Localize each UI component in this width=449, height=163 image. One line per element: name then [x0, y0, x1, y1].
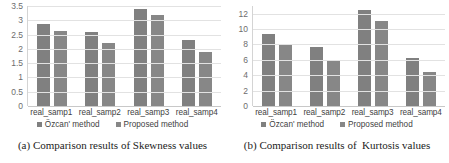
x-tick-label: real_samp2 [300, 108, 348, 117]
plot-area-b [252, 6, 445, 106]
bar[interactable] [375, 21, 388, 106]
legend-b: Özcan' methodProposed method [225, 120, 449, 129]
legend-label: Proposed method [124, 120, 189, 129]
gridline [253, 29, 445, 30]
y-tick-label: 10 [239, 25, 248, 34]
bar[interactable] [327, 61, 340, 106]
x-axis-labels-b: real_samp1real_samp2real_samp3real_samp4 [252, 108, 445, 117]
y-tick-label: 8 [243, 40, 248, 49]
figure-container: 00.511.522.533.5 real_samp1real_samp2rea… [0, 0, 449, 163]
gridline [28, 6, 221, 7]
legend-label: Özcan' method [45, 120, 100, 129]
y-tick-label: 0.5 [11, 87, 23, 96]
chart-skewness: 00.511.522.533.5 real_samp1real_samp2rea… [0, 6, 225, 122]
y-tick-label: 2.5 [11, 30, 23, 39]
bar[interactable] [37, 24, 50, 106]
y-tick-label: 6 [243, 56, 248, 65]
legend-swatch-icon [261, 122, 266, 127]
y-axis-labels-b: 024681012 [225, 6, 251, 106]
legend-swatch-icon [37, 122, 42, 127]
gridline [28, 20, 221, 21]
panel-skewness: 00.511.522.533.5 real_samp1real_samp2rea… [0, 0, 225, 163]
bar[interactable] [182, 40, 195, 106]
gridline [253, 91, 445, 92]
gridline [253, 75, 445, 76]
legend-item[interactable]: Özcan' method [261, 120, 324, 129]
gridline [253, 44, 445, 45]
caption-a: (a) Comparison results of Skewness value… [0, 139, 225, 151]
plot-wrapper-b: 024681012 real_samp1real_samp2real_samp3… [225, 6, 449, 122]
gridline [28, 92, 221, 93]
plot-wrapper-a: 00.511.522.533.5 real_samp1real_samp2rea… [0, 6, 225, 122]
plot-area-a [27, 6, 221, 106]
x-axis-labels-a: real_samp1real_samp2real_samp3real_samp4 [27, 108, 221, 117]
gridline [28, 77, 221, 78]
x-tick-label: real_samp2 [76, 108, 125, 117]
legend-item[interactable]: Proposed method [116, 120, 189, 129]
gridline [28, 63, 221, 64]
bar[interactable] [85, 32, 98, 106]
caption-b: (b) Comparison results of Kurtosis value… [225, 139, 449, 151]
bar[interactable] [310, 47, 323, 106]
y-tick-label: 1.5 [11, 59, 23, 68]
y-tick-label: 12 [239, 9, 248, 18]
gridline [253, 106, 445, 107]
y-tick-label: 2 [243, 86, 248, 95]
gridline [28, 106, 221, 107]
legend-swatch-icon [340, 122, 345, 127]
bar[interactable] [102, 43, 115, 106]
chart-kurtosis: 024681012 real_samp1real_samp2real_samp3… [225, 6, 449, 122]
y-tick-label: 0 [18, 102, 23, 111]
legend-item[interactable]: Özcan' method [37, 120, 100, 129]
y-tick-label: 3 [18, 16, 23, 25]
gridline [28, 49, 221, 50]
legend-item[interactable]: Proposed method [340, 120, 413, 129]
y-tick-label: 1 [18, 73, 23, 82]
x-tick-label: real_samp4 [173, 108, 222, 117]
bar[interactable] [423, 72, 436, 106]
panel-kurtosis: 024681012 real_samp1real_samp2real_samp3… [225, 0, 449, 163]
y-axis-labels-a: 00.511.522.533.5 [0, 6, 26, 106]
y-tick-label: 2 [18, 45, 23, 54]
legend-a: Özcan' methodProposed method [0, 120, 225, 129]
bar[interactable] [199, 52, 212, 106]
y-tick-label: 4 [243, 71, 248, 80]
x-tick-label: real_samp1 [27, 108, 76, 117]
x-tick-label: real_samp3 [349, 108, 397, 117]
y-tick-label: 0 [243, 102, 248, 111]
legend-label: Proposed method [348, 120, 413, 129]
gridline [253, 14, 445, 15]
x-tick-label: real_samp4 [397, 108, 445, 117]
gridline [28, 35, 221, 36]
gridline [253, 60, 445, 61]
legend-label: Özcan' method [269, 120, 324, 129]
legend-swatch-icon [116, 122, 121, 127]
y-tick-label: 3.5 [11, 2, 23, 11]
bar[interactable] [406, 58, 419, 106]
x-tick-label: real_samp3 [124, 108, 173, 117]
x-tick-label: real_samp1 [252, 108, 300, 117]
bar[interactable] [54, 31, 67, 106]
